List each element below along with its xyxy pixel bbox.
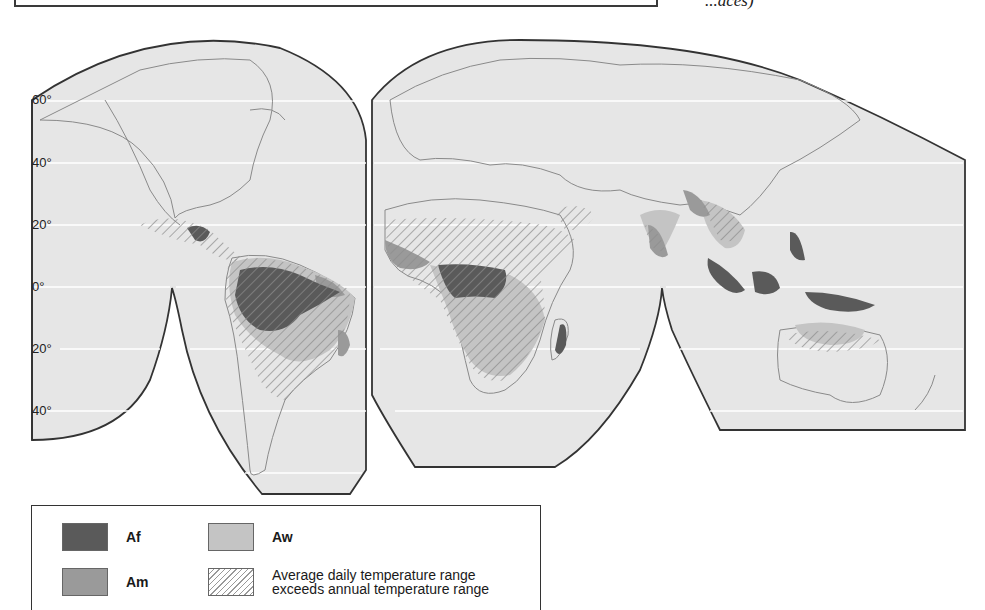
aw-swatch	[208, 523, 254, 551]
latitude-label-20n: 20°	[32, 217, 52, 232]
legend-label-am: Am	[126, 574, 149, 590]
map-legend: Af Am Aw Average daily temperature range…	[31, 505, 541, 610]
am-swatch	[62, 568, 108, 596]
af-swatch	[62, 523, 108, 551]
hatch-swatch	[208, 568, 254, 596]
latitude-label-equator: 0°	[32, 279, 44, 294]
latitude-label-20s: 20°	[32, 341, 52, 356]
legend-item-am: Am	[62, 568, 149, 596]
legend-hatch-line1: Average daily temperature range	[272, 568, 489, 582]
latitude-label-40n: 40°	[32, 155, 52, 170]
legend-label-aw: Aw	[272, 529, 293, 545]
legend-item-aw: Aw	[208, 523, 293, 551]
latitude-label-60n: 60°	[32, 92, 52, 107]
americas-lobe	[32, 41, 366, 494]
legend-item-hatch: Average daily temperature range exceeds …	[208, 568, 489, 596]
legend-item-af: Af	[62, 523, 141, 551]
legend-label-af: Af	[126, 529, 141, 545]
legend-hatch-line2: exceeds annual temperature range	[272, 582, 489, 596]
legend-label-hatch: Average daily temperature range exceeds …	[272, 568, 489, 596]
latitude-label-40s: 40°	[32, 403, 52, 418]
